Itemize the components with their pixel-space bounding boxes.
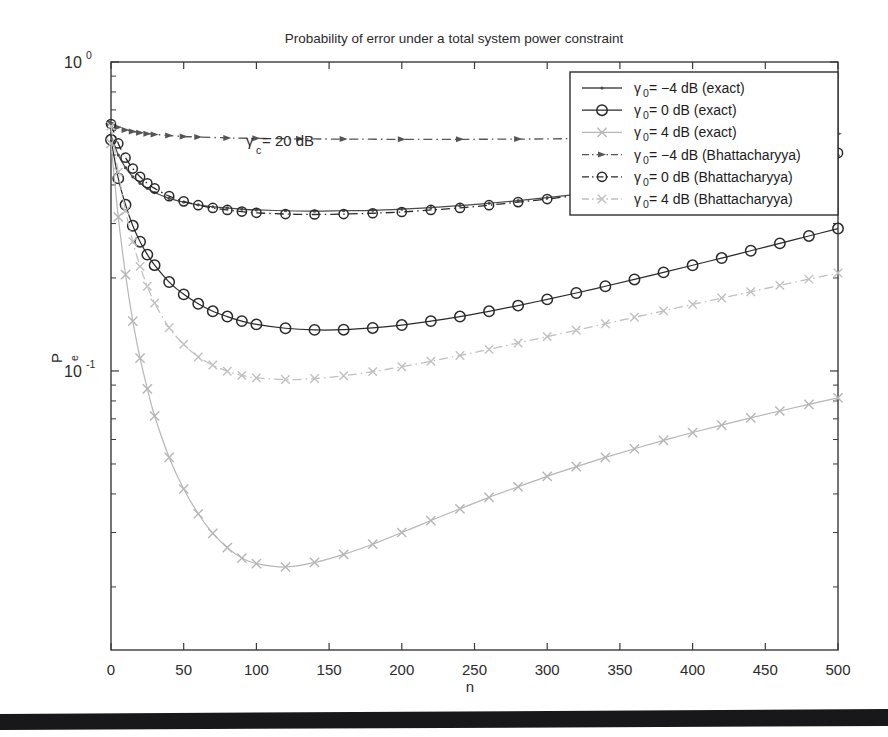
data-point-dot — [124, 166, 127, 169]
legend-label-gamma: γ — [634, 169, 641, 185]
legend-label-gamma: γ — [634, 124, 641, 140]
legend-label-text: = 4 dB (Bhattacharyya) — [649, 191, 793, 207]
annotation-gamma-symbol: γ — [246, 132, 254, 149]
data-point-dot — [600, 86, 603, 89]
y-tick-label-exponent: 0 — [86, 49, 92, 61]
data-point-dot — [226, 206, 229, 209]
chart-legend: γ0 = −4 dB (exact)γ0 = 0 dB (exact)γ0 = … — [570, 72, 838, 215]
x-tick-label: 300 — [535, 661, 560, 678]
data-point-dot — [429, 206, 432, 209]
x-tick-label: 0 — [107, 661, 115, 678]
y-axis-label-base: P — [48, 353, 65, 363]
legend-label-text: = −4 dB (Bhattacharyya) — [649, 147, 801, 163]
y-tick-label-base: 10 — [64, 363, 82, 380]
x-tick-label: 350 — [607, 661, 632, 678]
data-point-dot — [211, 205, 214, 208]
probability-of-error-chart: Probability of error under a total syste… — [0, 0, 888, 737]
data-point-dot — [131, 175, 134, 178]
data-point-dot — [458, 204, 461, 207]
legend-label-gamma: γ — [634, 191, 641, 207]
figure-container: Probability of error under a total syste… — [0, 0, 888, 737]
legend-label-text: = 0 dB (exact) — [649, 102, 737, 118]
x-tick-label: 100 — [244, 661, 269, 678]
x-tick-label: 450 — [753, 661, 778, 678]
x-tick-label: 500 — [825, 661, 850, 678]
annotation-gamma-subscript: c — [256, 144, 261, 156]
x-tick-label: 200 — [389, 661, 414, 678]
legend-label-text: = −4 dB (exact) — [649, 80, 745, 96]
x-axis-label: n — [466, 678, 474, 695]
legend-label-text: = 4 dB (exact) — [649, 124, 737, 140]
legend-label-gamma: γ — [634, 80, 641, 96]
y-tick-label-base: 10 — [64, 54, 82, 71]
x-tick-label: 150 — [317, 661, 342, 678]
x-tick-label: 50 — [175, 661, 192, 678]
legend-label-text: = 0 dB (Bhattacharyya) — [649, 169, 793, 185]
data-point-dot — [117, 153, 120, 156]
y-tick-label-exponent: -1 — [86, 358, 95, 370]
chart-title: Probability of error under a total syste… — [285, 31, 624, 46]
x-tick-label: 250 — [462, 661, 487, 678]
legend-label-gamma: γ — [634, 102, 641, 118]
annotation-gamma-value: = 20 dB — [262, 132, 314, 149]
legend-label-gamma: γ — [634, 147, 641, 163]
data-point-dot — [240, 208, 243, 211]
data-point-dot — [487, 202, 490, 205]
y-axis-label-sub: e — [68, 355, 80, 361]
x-tick-label: 400 — [680, 661, 705, 678]
